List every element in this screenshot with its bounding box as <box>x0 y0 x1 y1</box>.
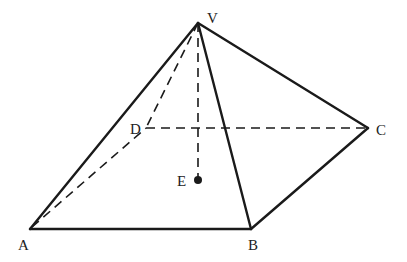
edge-VA <box>30 23 198 229</box>
hidden-edges <box>32 23 368 227</box>
edge-VB <box>198 23 251 229</box>
label-E: E <box>177 173 186 189</box>
label-V: V <box>207 10 218 26</box>
pyramid-diagram: V A B C D E <box>0 0 407 262</box>
edge-BC <box>251 128 368 229</box>
point-E-dot <box>194 176 202 184</box>
edge-VC <box>198 23 368 128</box>
label-A: A <box>18 237 29 253</box>
label-C: C <box>376 122 386 138</box>
solid-edges <box>30 23 368 229</box>
label-D: D <box>130 121 141 137</box>
label-B: B <box>248 237 258 253</box>
edge-AD <box>32 128 146 227</box>
